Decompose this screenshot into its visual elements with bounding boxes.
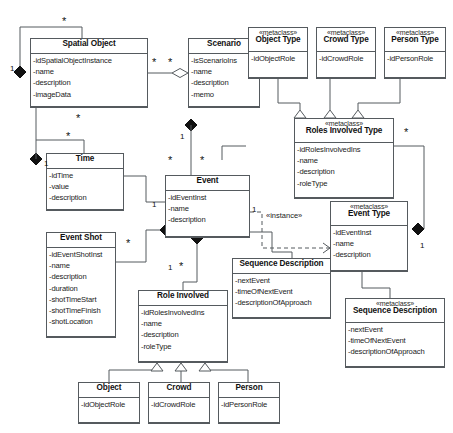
multiplicity-event-role-one: 1 — [168, 264, 172, 272]
attribute: -idEventInst — [168, 192, 248, 203]
attribute: -timeOfNextEvent — [235, 286, 329, 297]
class-title: Object Type — [251, 36, 305, 45]
class-title: Role Involved — [141, 292, 225, 301]
class-crowd-type[interactable]: «metaclass» Crowd Type -idCrowdRole — [316, 27, 376, 79]
attribute: -idRolesInvolvedIns — [141, 307, 226, 318]
class-title: Person Type — [387, 36, 443, 45]
class-person[interactable]: Person -idPersonRole — [218, 382, 280, 424]
class-title: Event — [168, 177, 247, 186]
attribute: -description — [49, 192, 122, 203]
attribute: -memo — [191, 89, 258, 100]
class-object-type[interactable]: «metaclass» Object Type -idObjectRole — [248, 27, 308, 79]
class-title: Event Shot — [49, 234, 113, 243]
class-header: «metaclass» Object Type — [249, 28, 307, 52]
class-attributes: -nextEvent -timeOfNextEvent -description… — [346, 323, 444, 367]
attribute: -idTime — [49, 170, 122, 181]
attribute: -descriptionOfApproach — [348, 346, 443, 357]
class-person-type[interactable]: «metaclass» Person Type -idPersonRole — [384, 27, 446, 79]
attribute: -duration — [49, 283, 114, 294]
uml-diagram-canvas: Spatial Object -idSpatialObjectInstance … — [0, 0, 453, 433]
class-header: Event — [166, 176, 249, 191]
class-event-type[interactable]: «metaclass» Event Type -idEventInst -nam… — [330, 201, 408, 272]
class-sequence-description-type[interactable]: «metaclass» Sequence Description -nextEv… — [345, 298, 445, 368]
attribute: -timeOfNextEvent — [348, 335, 443, 346]
class-header: Sequence Description — [233, 259, 330, 274]
attribute: -name — [168, 203, 248, 214]
multiplicity-time-self-one: 1 — [44, 160, 48, 168]
attribute: -name — [297, 155, 392, 166]
multiplicity-roles-involved-type-star: * — [404, 127, 408, 138]
attribute: -idPersonRole — [387, 53, 444, 64]
class-header: Crowd — [149, 383, 209, 398]
class-attributes: -idCrowdRole — [149, 398, 209, 423]
class-header: Time — [47, 154, 123, 169]
class-title: Crowd — [151, 384, 207, 393]
attribute: -name — [333, 238, 406, 249]
class-attributes: -idTime -value -description — [47, 169, 123, 210]
multiplicity-event-type-one: 1 — [420, 242, 424, 250]
attribute: -idCrowdRole — [319, 53, 374, 64]
class-header: Object — [79, 383, 139, 398]
class-attributes: -idCrowdRole — [317, 52, 375, 78]
attribute: -idSpatialObjectInstance — [33, 55, 146, 66]
class-attributes: -idPersonRole — [219, 398, 279, 423]
class-header: Person — [219, 383, 279, 398]
attribute: -description — [141, 329, 226, 340]
class-object[interactable]: Object -idObjectRole — [78, 382, 140, 424]
class-header: «metaclass» Event Type — [331, 202, 407, 226]
multiplicity-spatial-object-bottom-star: * — [76, 113, 80, 124]
multiplicity-time-self-star: * — [66, 131, 70, 142]
attribute: -shotTimeFinish — [49, 305, 114, 316]
multiplicity-event-role-star: * — [179, 261, 183, 272]
class-time[interactable]: Time -idTime -value -description — [46, 153, 124, 211]
class-header: Role Involved — [139, 291, 227, 306]
multiplicity-event-shot-star: * — [126, 238, 130, 249]
class-event-shot[interactable]: Event Shot -idEventShotInst -name -descr… — [46, 232, 116, 338]
multiplicity-spatial-object-self-star: * — [62, 16, 66, 27]
multiplicity-spatial-object-scenario-b: * — [168, 57, 172, 68]
class-attributes: -idObjectRole — [249, 52, 307, 78]
attribute: -description — [191, 77, 258, 88]
attribute: -name — [141, 318, 226, 329]
class-attributes: -idSpatialObjectInstance -name -descript… — [31, 54, 147, 107]
multiplicity-spatial-object-scenario-a: * — [152, 57, 156, 68]
class-roles-involved-type[interactable]: «metaclass» Roles Involved Type -idRoles… — [294, 118, 394, 199]
class-title: Object — [81, 384, 137, 393]
class-header: Event Shot — [47, 233, 115, 248]
attribute: -idEventInst — [333, 227, 406, 238]
attribute: -idEventShotInst — [49, 249, 114, 260]
class-header: «metaclass» Crowd Type — [317, 28, 375, 52]
class-crowd[interactable]: Crowd -idCrowdRole — [148, 382, 210, 424]
attribute: -roleType — [141, 341, 226, 352]
attribute: -idObjectRole — [251, 53, 306, 64]
attribute: -descriptionOfApproach — [235, 297, 329, 308]
multiplicity-scenario-event-one: 1 — [180, 133, 184, 141]
class-title: Event Type — [333, 210, 405, 219]
class-title: Roles Involved Type — [297, 127, 391, 136]
class-header: «metaclass» Sequence Description — [346, 299, 444, 323]
class-title: Time — [49, 155, 121, 164]
class-attributes: -idRolesInvolvedIns -name -description -… — [295, 143, 393, 198]
attribute: -nextEvent — [348, 324, 443, 335]
class-spatial-object[interactable]: Spatial Object -idSpatialObjectInstance … — [30, 38, 148, 108]
attribute: -description — [333, 249, 406, 260]
class-header: «metaclass» Roles Involved Type — [295, 119, 393, 143]
attribute: -description — [33, 77, 146, 88]
class-sequence-description[interactable]: Sequence Description -nextEvent -timeOfN… — [232, 258, 331, 319]
attribute: -description — [49, 271, 114, 282]
multiplicity-event-instance-one: 1 — [252, 206, 256, 214]
class-title: Crowd Type — [319, 36, 373, 45]
class-role-involved[interactable]: Role Involved -idRolesInvolvedIns -name … — [138, 290, 228, 363]
attribute: -nextEvent — [235, 275, 329, 286]
attribute: -idRolesInvolvedIns — [297, 144, 392, 155]
attribute: -idObjectRole — [81, 399, 138, 410]
class-title: Sequence Description — [235, 260, 328, 269]
class-header: Spatial Object — [31, 39, 147, 54]
attribute: -roleType — [297, 178, 392, 189]
class-attributes: -idEventInst -name -description — [166, 191, 249, 237]
class-title: Person — [221, 384, 277, 393]
class-attributes: -nextEvent -timeOfNextEvent -description… — [233, 274, 330, 318]
multiplicity-time-event-one: 1 — [152, 201, 156, 209]
class-attributes: -idRolesInvolvedIns -name -description -… — [139, 306, 227, 362]
class-event[interactable]: Event -idEventInst -name -description — [165, 175, 250, 238]
